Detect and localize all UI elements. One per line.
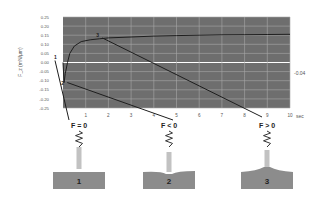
x-tick-label: 7 <box>221 113 224 118</box>
y-tick-label: 0.25 <box>41 15 50 20</box>
y-tick-label: -0.10 <box>39 78 49 83</box>
x-axis-label: sec <box>296 113 304 119</box>
y-tick-label: 0.10 <box>41 42 50 47</box>
y-tick-label: -0.05 <box>39 69 49 74</box>
probe-tip <box>77 147 82 169</box>
point-marker-1: 1 <box>54 54 57 60</box>
figure: 0.250.200.150.100.050.00-0.05-0.10-0.15-… <box>0 0 322 201</box>
x-tick-label: 6 <box>198 113 201 118</box>
x-tick-label: 1 <box>84 113 87 118</box>
y-tick-label: 0.20 <box>41 24 50 29</box>
force-time-chart: 0.250.200.150.100.050.00-0.05-0.10-0.15-… <box>0 0 322 201</box>
point-marker-3: 3 <box>96 32 99 38</box>
panel-2: F < 02 <box>143 122 195 189</box>
x-tick-label: 10 <box>287 113 293 118</box>
y-tick-label: 0.05 <box>41 51 50 56</box>
y-tick-label: -0.25 <box>39 106 49 111</box>
spring-icon <box>264 131 271 147</box>
y-tick-label: 0.00 <box>41 60 50 65</box>
x-tick-label: 3 <box>130 113 133 118</box>
panel-number: 1 <box>77 177 82 186</box>
x-tick-label: 2 <box>107 113 110 118</box>
panel-3: F > 03 <box>241 122 293 189</box>
right-annotation: -0.04 <box>294 70 306 76</box>
spring-icon <box>76 131 83 147</box>
force-condition-label: F = 0 <box>71 122 87 129</box>
force-condition-label: F > 0 <box>259 122 275 129</box>
spring-icon <box>166 131 173 147</box>
probe-tip <box>167 152 172 172</box>
y-axis-label: F_z (mN/µm) <box>17 47 23 77</box>
illustration-panels: F = 01F < 02F > 03 <box>53 122 293 189</box>
force-condition-label: F < 0 <box>161 122 177 129</box>
x-tick-label: 9 <box>266 113 269 118</box>
y-tick-label: -0.20 <box>39 97 49 102</box>
point-marker-2: 2 <box>61 80 64 86</box>
x-tick-label: 8 <box>243 113 246 118</box>
y-tick-label: 0.15 <box>41 33 50 38</box>
panel-1: F = 01 <box>53 122 105 189</box>
y-tick-label: -0.15 <box>39 87 49 92</box>
panel-number: 3 <box>265 177 270 186</box>
panel-number: 2 <box>167 177 172 186</box>
plot-area <box>63 17 290 108</box>
y-axis-ticks: 0.250.200.150.100.050.00-0.05-0.10-0.15-… <box>39 15 49 111</box>
x-tick-label: 5 <box>175 113 178 118</box>
